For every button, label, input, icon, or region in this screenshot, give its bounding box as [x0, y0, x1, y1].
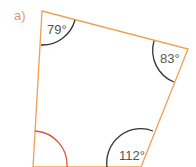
quadrilateral-diagram: a) 79° 83° 112°: [0, 0, 196, 167]
angle-arc-bottom-left-unknown: [35, 131, 67, 167]
angle-label-bottom-right: 112°: [119, 148, 145, 163]
angle-label-right: 83°: [160, 51, 180, 66]
part-label: a): [14, 8, 26, 23]
angle-label-top-left: 79°: [47, 22, 67, 37]
